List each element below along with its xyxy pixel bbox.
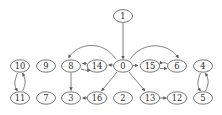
node-4[interactable]: 4: [194, 60, 213, 72]
node-14[interactable]: 14: [87, 60, 107, 72]
node-1[interactable]: 1: [114, 10, 133, 23]
node-5[interactable]: 5: [194, 92, 213, 104]
node-label: 11: [15, 93, 26, 103]
edge-0-to-6-arc: [130, 46, 179, 60]
edge-11-to-10: [23, 73, 26, 91]
node-16[interactable]: 16: [87, 92, 107, 104]
edge-0-to-13: [129, 72, 145, 91]
node-6[interactable]: 6: [168, 60, 187, 72]
node-13[interactable]: 13: [140, 92, 160, 104]
node-0[interactable]: 0: [114, 60, 133, 72]
node-2[interactable]: 2: [114, 92, 133, 104]
edge-5-to-4: [206, 73, 209, 91]
graph-diagram: 1 10 9 8 14 0: [0, 0, 222, 115]
node-15[interactable]: 15: [140, 60, 160, 72]
node-9[interactable]: 9: [37, 60, 56, 72]
edge-4-to-5: [198, 73, 201, 91]
edge-0-to-16: [102, 72, 118, 91]
node-3[interactable]: 3: [62, 92, 81, 104]
node-12[interactable]: 12: [167, 92, 187, 104]
node-11[interactable]: 11: [11, 92, 30, 104]
node-label: 1: [120, 11, 125, 21]
node-label: 14: [92, 61, 103, 71]
node-label: 13: [145, 93, 156, 103]
node-8[interactable]: 8: [62, 60, 81, 72]
edge-6-to-15: [160, 63, 168, 65]
node-label: 0: [120, 61, 125, 71]
node-label: 10: [15, 61, 26, 71]
node-label: 3: [68, 93, 73, 103]
node-label: 5: [200, 93, 205, 103]
node-10[interactable]: 10: [11, 60, 30, 72]
node-label: 7: [43, 93, 48, 103]
node-label: 4: [200, 61, 205, 71]
node-7[interactable]: 7: [37, 92, 56, 104]
node-label: 16: [92, 93, 103, 103]
edge-8-to-14: [81, 69, 88, 71]
edge-0-to-8-arc: [69, 45, 117, 59]
node-label: 8: [68, 61, 73, 71]
node-label: 6: [174, 61, 179, 71]
edge-10-to-11: [15, 73, 18, 91]
node-label: 12: [172, 93, 183, 103]
node-label: 2: [120, 93, 125, 103]
graph-canvas: 1 10 9 8 14 0: [0, 0, 222, 115]
nodes-layer: 1 10 9 8 14 0: [11, 10, 213, 105]
node-label: 15: [145, 61, 156, 71]
node-label: 9: [43, 61, 48, 71]
